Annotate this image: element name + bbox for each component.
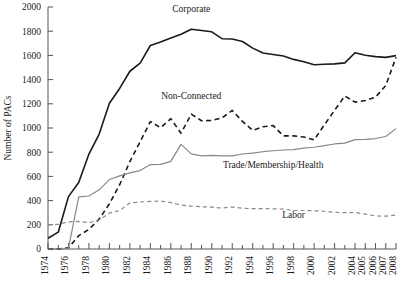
y-tick-label: 800 xyxy=(27,148,42,158)
x-tick-label: 2002 xyxy=(327,256,337,275)
x-axis-ticks xyxy=(48,243,396,249)
y-tick-label: 1600 xyxy=(22,51,41,61)
series-line-non-connected xyxy=(48,57,396,249)
x-tick-label: 1996 xyxy=(265,256,275,275)
y-tick-label: 2000 xyxy=(22,2,41,12)
pac-line-chart: 0200400600800100012001400160018002000 Nu… xyxy=(0,0,407,303)
chart-canvas: 0200400600800100012001400160018002000 Nu… xyxy=(0,0,407,303)
series-line-corporate xyxy=(48,29,396,238)
x-axis-group: 1974197619781980198219841986198819901992… xyxy=(40,243,398,275)
x-tick-label: 2006 xyxy=(368,256,378,275)
y-tick-label: 1200 xyxy=(22,99,41,109)
x-tick-label: 1988 xyxy=(183,256,193,275)
x-tick-label: 1980 xyxy=(101,256,111,275)
y-tick-label: 600 xyxy=(27,172,42,182)
y-axis-title: Number of PACs xyxy=(3,95,13,160)
x-tick-label: 1984 xyxy=(142,256,152,275)
y-axis-tick-labels: 0200400600800100012001400160018002000 xyxy=(22,2,41,254)
series-label-non-connected: Non-Connected xyxy=(161,91,221,101)
y-tick-label: 1000 xyxy=(22,123,41,133)
x-axis-tick-labels: 1974197619781980198219841986198819901992… xyxy=(40,256,398,275)
x-tick-label: 2005 xyxy=(357,256,367,275)
x-tick-label: 1978 xyxy=(81,256,91,275)
series-layer xyxy=(48,29,396,249)
y-tick-label: 200 xyxy=(27,220,42,230)
x-tick-label: 1976 xyxy=(60,256,70,275)
series-annotations: CorporateNon-ConnectedTrade/Membership/H… xyxy=(161,4,323,220)
y-axis-ticks xyxy=(48,7,53,249)
x-tick-label: 2007 xyxy=(378,256,388,275)
y-tick-label: 400 xyxy=(27,196,42,206)
x-tick-label: 2008 xyxy=(388,256,398,275)
x-tick-label: 1974 xyxy=(40,256,50,275)
y-axis-group: 0200400600800100012001400160018002000 Nu… xyxy=(3,2,53,254)
x-tick-label: 2004 xyxy=(347,256,357,275)
x-tick-label: 2000 xyxy=(306,256,316,275)
series-label-trade-membership-health: Trade/Membership/Health xyxy=(223,160,324,170)
series-label-corporate: Corporate xyxy=(172,4,210,14)
y-tick-label: 1400 xyxy=(22,75,41,85)
y-tick-label: 1800 xyxy=(22,27,41,37)
x-tick-label: 1982 xyxy=(122,256,132,275)
series-line-trade-membership-health xyxy=(48,129,396,249)
x-tick-label: 1998 xyxy=(286,256,296,275)
series-line-labor xyxy=(48,201,396,225)
x-tick-label: 1986 xyxy=(163,256,173,275)
y-tick-label: 0 xyxy=(36,244,41,254)
x-tick-label: 1992 xyxy=(224,256,234,275)
x-tick-label: 1990 xyxy=(204,256,214,275)
series-label-labor: Labor xyxy=(282,210,306,220)
x-tick-label: 1994 xyxy=(245,256,255,275)
